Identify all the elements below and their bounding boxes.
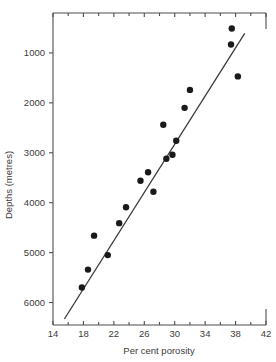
x-tick-label: 26 <box>139 328 150 339</box>
y-tick-label: 2000 <box>24 97 45 108</box>
data-point <box>105 252 111 258</box>
data-point <box>116 220 122 226</box>
regression-line-group <box>64 33 244 319</box>
data-point <box>160 122 166 128</box>
data-point <box>181 105 187 111</box>
data-point <box>123 204 129 210</box>
y-tick-label: 6000 <box>24 297 45 308</box>
data-point <box>235 73 241 79</box>
data-point <box>187 87 193 93</box>
data-point <box>228 41 234 47</box>
axes-group <box>49 13 266 325</box>
figure-container: 1418222630343842100020003000400050006000… <box>0 0 276 362</box>
x-tick-label: 18 <box>78 328 89 339</box>
x-tick-label: 42 <box>261 328 272 339</box>
data-point <box>229 25 235 31</box>
data-point <box>163 156 169 162</box>
data-point <box>79 284 85 290</box>
data-point <box>150 189 156 195</box>
x-tick-label: 38 <box>230 328 241 339</box>
data-point <box>91 232 97 238</box>
data-point <box>137 178 143 184</box>
y-tick-label: 4000 <box>24 197 45 208</box>
y-tick-label: 3000 <box>24 147 45 158</box>
data-point <box>173 138 179 144</box>
data-point <box>169 152 175 158</box>
y-tick-label: 1000 <box>24 47 45 58</box>
regression-line <box>64 33 244 319</box>
x-tick-label: 22 <box>109 328 120 339</box>
data-point <box>85 266 91 272</box>
y-axis-title: Depths (metres) <box>3 151 14 219</box>
y-tick-label: 5000 <box>24 247 45 258</box>
x-tick-label: 30 <box>169 328 180 339</box>
x-tick-label: 34 <box>200 328 211 339</box>
x-axis-title: Per cent porosity <box>123 345 195 356</box>
scatter-plot: 1418222630343842100020003000400050006000… <box>0 0 276 362</box>
data-point <box>145 169 151 175</box>
tick-labels-group: 1418222630343842100020003000400050006000 <box>24 47 271 339</box>
x-tick-label: 14 <box>48 328 59 339</box>
data-points-group <box>79 25 241 290</box>
